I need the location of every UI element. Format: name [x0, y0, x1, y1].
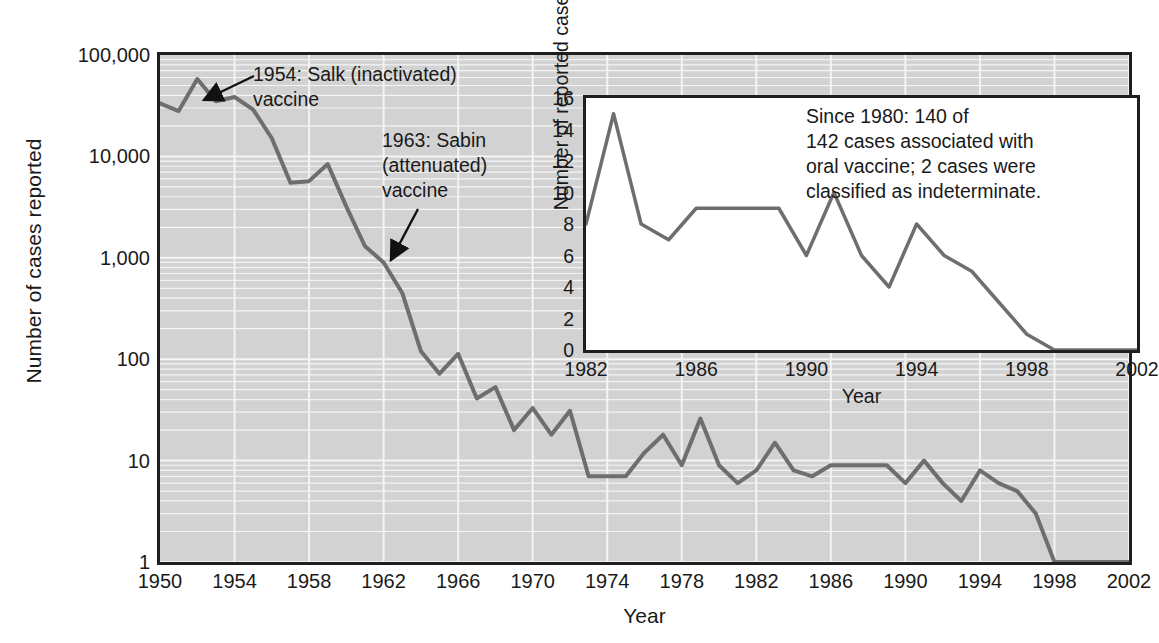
inset-y-tick-label: 12 [552, 150, 574, 173]
inset-y-tick-label: 4 [563, 276, 574, 299]
main-x-tick-label: 1958 [287, 570, 332, 593]
main-x-axis-title: Year [157, 604, 1132, 628]
main-x-tick-label: 1978 [660, 570, 705, 593]
main-y-tick-label: 1,000 [100, 246, 150, 269]
main-x-tick-label: 2002 [1107, 570, 1152, 593]
inset-y-tick-label: 16 [552, 87, 574, 110]
inset-y-tick-label: 10 [552, 181, 574, 204]
main-x-tick-label: 1974 [585, 570, 630, 593]
main-y-axis-title: Number of cases reported [22, 0, 46, 541]
main-x-tick-label: 1982 [734, 570, 779, 593]
main-y-tick-label: 100 [117, 348, 150, 371]
main-y-tick-label: 10,000 [89, 145, 150, 168]
main-x-tick-label: 1950 [138, 570, 183, 593]
inset-x-tick-label: 1990 [785, 358, 828, 381]
inset-note-label: Since 1980: 140 of 142 cases associated … [806, 104, 1041, 204]
inset-x-axis-ticks: 198219861990199419982002 [583, 358, 1140, 384]
main-x-tick-label: 1990 [883, 570, 928, 593]
main-y-tick-label: 10 [128, 449, 150, 472]
sabin-annotation-arrow [383, 206, 431, 268]
inset-y-tick-label: 2 [563, 307, 574, 330]
inset-x-tick-label: 1998 [1005, 358, 1048, 381]
main-x-tick-label: 1954 [212, 570, 257, 593]
salk-annotation-label: 1954: Salk (inactivated) vaccine [253, 62, 457, 112]
inset-x-tick-label: 1994 [895, 358, 938, 381]
main-y-tick-label: 100,000 [78, 44, 150, 67]
inset-y-tick-label: 14 [552, 118, 574, 141]
main-x-tick-label: 1962 [361, 570, 406, 593]
main-x-tick-label: 1966 [436, 570, 481, 593]
inset-x-axis-title: Year [583, 385, 1140, 408]
sabin-annotation-label: 1963: Sabin (attenuated) vaccine [382, 128, 487, 203]
main-x-tick-label: 1986 [809, 570, 854, 593]
main-x-tick-label: 1970 [510, 570, 555, 593]
inset-y-axis-ticks: 0246810121416 [512, 95, 574, 353]
main-x-tick-label: 1998 [1032, 570, 1077, 593]
inset-y-tick-label: 8 [563, 213, 574, 236]
main-x-tick-label: 1994 [958, 570, 1003, 593]
main-x-axis-ticks: 1950195419581962196619701974197819821986… [157, 570, 1132, 600]
inset-x-tick-label: 1986 [674, 358, 717, 381]
inset-x-tick-label: 2002 [1115, 358, 1158, 381]
inset-y-tick-label: 6 [563, 244, 574, 267]
inset-x-tick-label: 1982 [564, 358, 607, 381]
salk-annotation-arrow [196, 72, 258, 106]
